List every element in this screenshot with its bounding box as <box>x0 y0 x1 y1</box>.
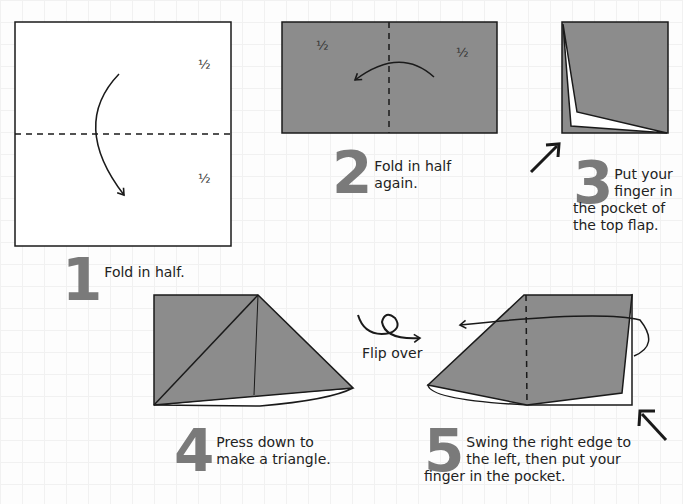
step-text-line: finger in the pocket. <box>424 468 631 485</box>
step-2: 2 Fold in half again. <box>332 148 451 198</box>
step2-paper <box>282 22 497 133</box>
step-text-line: Fold in half <box>374 158 451 175</box>
step-text-line: Swing the right edge to <box>466 434 631 451</box>
step-text-line: the left, then put your <box>466 451 631 468</box>
step-text-line: the pocket of <box>573 200 673 217</box>
step-number: 1 <box>62 255 100 305</box>
step-text-line: make a triangle. <box>216 451 330 468</box>
step-text-line: the top flap. <box>573 217 673 234</box>
step-3: 3 Put your finger in the pocket of the t… <box>573 158 673 234</box>
step-number: 4 <box>174 426 212 476</box>
step5-paper <box>428 295 666 440</box>
step-text-line: Press down to <box>216 434 330 451</box>
step-text-line: Put your <box>614 166 673 183</box>
step-1: 1 Fold in half. <box>62 255 185 305</box>
step1-paper <box>15 22 231 246</box>
half-label: ½ <box>316 38 329 53</box>
step-text-line: again. <box>374 175 451 192</box>
half-label: ½ <box>456 45 469 60</box>
half-label: ½ <box>198 57 211 72</box>
step-text: Fold in half. <box>104 264 184 281</box>
flip-over-icon <box>358 315 420 338</box>
half-label: ½ <box>198 171 211 186</box>
step-text-line: finger in <box>614 183 673 200</box>
step-5: 5 Swing the right edge to the left, then… <box>424 426 631 485</box>
flip-over-label: Flip over <box>362 345 422 362</box>
step4-paper <box>154 295 353 406</box>
step-number: 2 <box>332 148 370 198</box>
step-4: 4 Press down to make a triangle. <box>174 426 331 476</box>
